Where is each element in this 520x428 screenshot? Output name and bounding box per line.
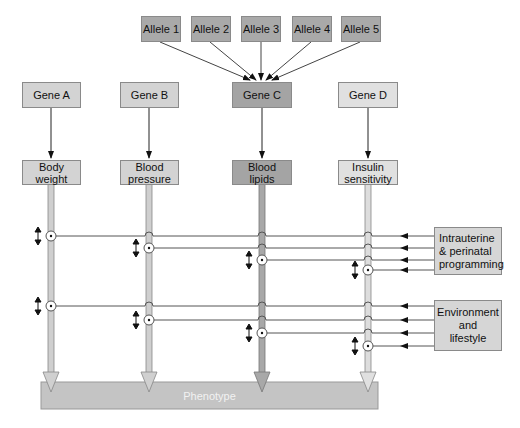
- gene-a-box: Gene A: [22, 82, 81, 108]
- environment-lines: [56, 302, 434, 346]
- up-down-arrow-icon: [352, 261, 358, 279]
- node-icon: [363, 265, 373, 275]
- up-down-arrow-icon: [35, 227, 41, 245]
- intrauterine-programming-box: Intrauterine & perinatal programming: [434, 227, 502, 275]
- trait-label-line1: Blood: [135, 161, 163, 173]
- allele-arrows: [160, 42, 360, 80]
- influence-label-line1: Intrauterine: [439, 232, 495, 245]
- trait-label-line2: pressure: [128, 173, 171, 185]
- up-down-arrow-icon: [352, 337, 358, 355]
- up-down-arrow-icon: [246, 251, 252, 269]
- gene-trait-arrows: [51, 108, 368, 158]
- allele-2-box: Allele 2: [191, 16, 231, 42]
- phenotype-label: Phenotype: [41, 382, 378, 409]
- trait-stems: [43, 184, 376, 392]
- up-down-arrow-icons: [35, 227, 358, 355]
- environment-arrowheads: [400, 303, 408, 349]
- node-icon: [363, 341, 373, 351]
- node-icon: [257, 328, 267, 338]
- allele-1-box: Allele 1: [141, 16, 181, 42]
- stem-body-weight: [43, 184, 59, 392]
- allele-4-box: Allele 4: [292, 16, 332, 42]
- node-icon: [144, 243, 154, 253]
- gene-b-box: Gene B: [120, 82, 179, 108]
- trait-label-line1: Blood: [248, 161, 276, 173]
- influence-label-line2: & perinatal: [439, 245, 492, 258]
- up-down-arrow-icon: [133, 239, 139, 257]
- trait-label-line2: lipids: [249, 173, 274, 185]
- trait-body-weight-box: Body weight: [22, 160, 81, 185]
- intrauterine-arrowheads: [400, 233, 408, 273]
- trait-label-line1: Body: [39, 161, 64, 173]
- gene-d-box: Gene D: [338, 82, 398, 108]
- allele-3-box: Allele 3: [241, 16, 281, 42]
- trait-label-line2: sensitivity: [344, 173, 392, 185]
- trait-label-line2: weight: [36, 173, 68, 185]
- trait-blood-pressure-box: Blood pressure: [120, 160, 179, 185]
- up-down-arrow-icon: [35, 297, 41, 315]
- node-icon: [144, 315, 154, 325]
- gene-environment-diagram: [0, 0, 520, 428]
- trait-insulin-sensitivity-box: Insulin sensitivity: [338, 160, 398, 185]
- environment-lifestyle-box: Environment and lifestyle: [434, 300, 502, 351]
- trait-blood-lipids-box: Blood lipids: [232, 160, 292, 185]
- node-icon: [46, 301, 56, 311]
- up-down-arrow-icon: [246, 324, 252, 342]
- allele-5-box: Allele 5: [341, 16, 381, 42]
- stem-blood-lipids: [254, 184, 270, 392]
- trait-label-line1: Insulin: [352, 161, 384, 173]
- influence-label-line3: lifestyle: [450, 332, 487, 345]
- influence-label-line3: programming: [439, 258, 504, 271]
- node-icon: [46, 231, 56, 241]
- intrauterine-lines: [56, 232, 434, 270]
- influence-label-line2: and: [459, 319, 477, 332]
- gene-c-box: Gene C: [232, 82, 292, 108]
- stem-insulin-sensitivity: [360, 184, 376, 392]
- influence-label-line1: Environment: [437, 306, 499, 319]
- stem-blood-pressure: [141, 184, 157, 392]
- node-icon: [257, 255, 267, 265]
- up-down-arrow-icon: [133, 311, 139, 329]
